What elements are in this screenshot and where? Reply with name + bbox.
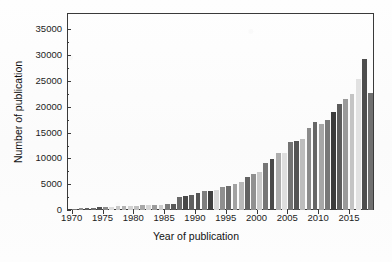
bar xyxy=(220,187,225,210)
y-axis-tick-label: 25000 xyxy=(36,76,62,86)
bar xyxy=(177,197,182,210)
bar-series xyxy=(68,14,373,210)
bar xyxy=(214,190,219,210)
bar xyxy=(294,141,299,210)
x-axis-tick-label: 1975 xyxy=(92,213,113,223)
bar xyxy=(239,182,244,210)
y-axis-tick-label: 10000 xyxy=(36,153,62,163)
bar xyxy=(257,172,262,210)
bar xyxy=(196,193,201,210)
bar xyxy=(245,177,250,210)
bar xyxy=(171,204,176,210)
x-axis-tick-label: 1980 xyxy=(123,213,144,223)
bar xyxy=(337,104,342,210)
bar xyxy=(325,120,330,210)
bar xyxy=(331,112,336,210)
bar xyxy=(134,206,139,210)
publication-bar-chart-figure: 05000100001500020000250003000035000 1970… xyxy=(0,0,392,262)
bar xyxy=(343,99,348,210)
bar xyxy=(146,205,151,210)
bar xyxy=(270,159,275,210)
bar xyxy=(85,208,90,210)
bar xyxy=(307,128,312,210)
bar xyxy=(300,139,305,210)
x-axis-title: Year of publication xyxy=(0,230,392,242)
bar xyxy=(226,186,231,211)
bar xyxy=(79,208,84,210)
bar xyxy=(116,206,121,210)
bar xyxy=(165,204,170,210)
bar xyxy=(263,163,268,210)
x-axis-tick-label: 1990 xyxy=(184,213,205,223)
bar xyxy=(276,153,281,211)
bar xyxy=(91,208,96,210)
bar xyxy=(183,196,188,210)
y-axis-tick-label: 5000 xyxy=(41,179,62,189)
bar xyxy=(140,205,145,210)
bar xyxy=(233,184,238,210)
bar xyxy=(72,209,77,210)
x-axis-tick-label: 1970 xyxy=(61,213,82,223)
bar xyxy=(288,142,293,210)
x-axis-tick-label: 2000 xyxy=(246,213,267,223)
bar xyxy=(208,191,213,210)
y-axis-tick-mark xyxy=(67,210,71,211)
bar xyxy=(159,205,164,210)
x-axis-tick-label: 2010 xyxy=(308,213,329,223)
bar xyxy=(356,79,361,210)
y-axis-title: Number of publication xyxy=(12,32,24,192)
bar xyxy=(122,206,127,210)
bar xyxy=(319,124,324,210)
bar xyxy=(282,153,287,210)
x-axis-tick-label: 1995 xyxy=(215,213,236,223)
y-axis-tick-label: 30000 xyxy=(36,50,62,60)
bar xyxy=(109,207,114,210)
x-axis-tick-label: 1985 xyxy=(154,213,175,223)
bar xyxy=(128,206,133,210)
bar xyxy=(362,59,367,210)
x-axis-tick-label: 2015 xyxy=(338,213,359,223)
bar xyxy=(97,207,102,210)
bar xyxy=(251,174,256,210)
bar xyxy=(368,93,373,210)
bar xyxy=(103,207,108,210)
bar xyxy=(202,191,207,210)
bar xyxy=(313,122,318,210)
bar xyxy=(189,195,194,210)
y-axis-tick-label: 35000 xyxy=(36,24,62,34)
bar xyxy=(152,205,157,210)
y-axis-tick-label: 20000 xyxy=(36,102,62,112)
x-axis-tick-label: 2005 xyxy=(277,213,298,223)
y-axis-tick-label: 15000 xyxy=(36,128,62,138)
bar xyxy=(350,94,355,210)
